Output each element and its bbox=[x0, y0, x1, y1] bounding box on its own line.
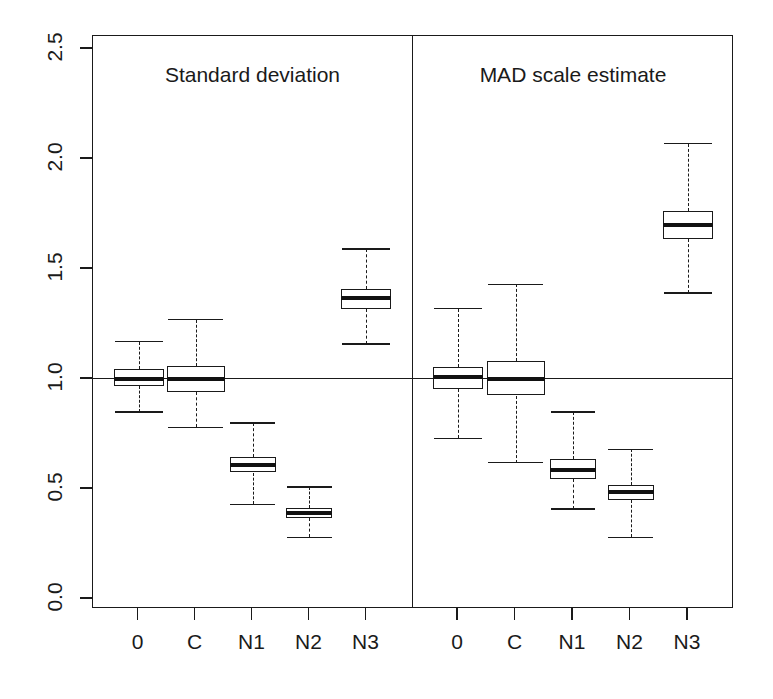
x-tick bbox=[686, 608, 688, 620]
whisker-lower bbox=[196, 392, 197, 427]
median-line bbox=[608, 490, 654, 494]
median-line bbox=[286, 511, 332, 515]
y-tick bbox=[80, 267, 92, 269]
x-tick-label: N2 bbox=[278, 630, 338, 654]
median-line bbox=[341, 296, 391, 300]
cap-upper bbox=[551, 411, 595, 413]
y-tick bbox=[80, 597, 92, 599]
x-tick bbox=[251, 608, 253, 620]
x-tick-label: 0 bbox=[427, 630, 487, 654]
plot-frame: Standard deviationMAD scale estimate bbox=[92, 35, 733, 608]
y-tick-label: 0.0 bbox=[43, 574, 67, 620]
cap-upper bbox=[608, 449, 652, 451]
whisker-upper bbox=[139, 342, 140, 370]
x-tick bbox=[571, 608, 573, 620]
median-line bbox=[114, 377, 164, 381]
whisker-upper bbox=[458, 309, 459, 367]
panel-divider bbox=[412, 36, 414, 607]
cap-lower bbox=[608, 537, 652, 539]
median-line bbox=[433, 375, 483, 379]
median-line bbox=[167, 377, 225, 381]
whisker-lower bbox=[573, 479, 574, 509]
x-tick bbox=[137, 608, 139, 620]
x-tick bbox=[308, 608, 310, 620]
x-tick bbox=[194, 608, 196, 620]
x-tick-label: N3 bbox=[335, 630, 395, 654]
median-line bbox=[663, 223, 713, 227]
cap-lower bbox=[287, 537, 331, 539]
y-tick-label: 2.0 bbox=[43, 134, 67, 180]
cap-lower bbox=[434, 438, 482, 440]
cap-lower bbox=[488, 462, 544, 464]
x-tick bbox=[629, 608, 631, 620]
whisker-upper bbox=[196, 320, 197, 366]
x-tick-label: N2 bbox=[600, 630, 660, 654]
cap-upper bbox=[664, 143, 712, 145]
y-tick-label: 2.5 bbox=[43, 24, 67, 70]
whisker-upper bbox=[631, 449, 632, 484]
x-tick bbox=[456, 608, 458, 620]
cap-lower bbox=[664, 292, 712, 294]
y-tick bbox=[80, 157, 92, 159]
boxplot-figure: 0.00.51.01.52.02.5 0CN1N2N30CN1N2N3 Stan… bbox=[0, 0, 773, 699]
whisker-upper bbox=[366, 249, 367, 289]
x-tick bbox=[514, 608, 516, 620]
x-tick bbox=[365, 608, 367, 620]
whisker-lower bbox=[458, 389, 459, 439]
y-tick bbox=[80, 377, 92, 379]
median-line bbox=[487, 377, 545, 381]
cap-lower bbox=[230, 504, 274, 506]
whisker-lower bbox=[309, 518, 310, 538]
y-tick-label: 1.5 bbox=[43, 244, 67, 290]
x-tick-label: C bbox=[485, 630, 545, 654]
whisker-lower bbox=[253, 473, 254, 505]
cap-lower bbox=[168, 427, 224, 429]
x-tick-label: N1 bbox=[542, 630, 602, 654]
x-tick-label: C bbox=[165, 630, 225, 654]
cap-lower bbox=[342, 343, 390, 345]
whisker-lower bbox=[139, 386, 140, 412]
whisker-lower bbox=[688, 239, 689, 293]
y-tick-label: 0.5 bbox=[43, 464, 67, 510]
panel-title-2: MAD scale estimate bbox=[423, 63, 723, 87]
y-tick-label: 1.0 bbox=[43, 354, 67, 400]
panel-title-1: Standard deviation bbox=[103, 63, 403, 87]
cap-upper bbox=[342, 248, 390, 250]
y-tick bbox=[80, 47, 92, 49]
median-line bbox=[230, 463, 276, 467]
cap-upper bbox=[488, 284, 544, 286]
whisker-lower bbox=[366, 309, 367, 344]
whisker-upper bbox=[573, 412, 574, 459]
whisker-upper bbox=[516, 284, 517, 361]
whisker-upper bbox=[253, 423, 254, 457]
whisker-lower bbox=[631, 500, 632, 537]
cap-lower bbox=[115, 411, 163, 413]
cap-upper bbox=[434, 308, 482, 310]
whisker-lower bbox=[516, 396, 517, 463]
x-tick-label: N3 bbox=[657, 630, 717, 654]
cap-upper bbox=[115, 341, 163, 343]
x-tick-label: N1 bbox=[222, 630, 282, 654]
whisker-upper bbox=[309, 487, 310, 508]
cap-upper bbox=[230, 422, 274, 424]
cap-upper bbox=[287, 486, 331, 488]
x-tick-label: 0 bbox=[108, 630, 168, 654]
whisker-upper bbox=[688, 144, 689, 211]
y-tick bbox=[80, 487, 92, 489]
cap-lower bbox=[551, 508, 595, 510]
median-line bbox=[550, 468, 596, 472]
cap-upper bbox=[168, 319, 224, 321]
